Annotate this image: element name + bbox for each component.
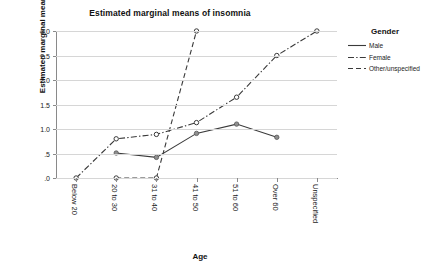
gridline (56, 105, 337, 106)
data-point (275, 135, 279, 139)
y-axis-title: Estimated marginal means (38, 0, 47, 123)
legend-item[interactable]: Male (348, 41, 440, 50)
data-point (234, 95, 238, 99)
legend-title: Gender (348, 27, 422, 36)
gridline (56, 154, 337, 155)
x-tick-label: Below 20 (70, 184, 79, 244)
legend-item-label: Other/unspecified (369, 65, 420, 72)
data-point (194, 120, 198, 124)
gridline (56, 129, 337, 130)
y-tick-label: .5 (28, 150, 50, 157)
legend: Gender MaleFemaleOther/unspecified (348, 27, 440, 76)
gridline (56, 31, 337, 32)
x-tick-mark (156, 178, 157, 182)
chart-root: Estimated marginal means of insomnia Est… (0, 0, 441, 276)
gridline (56, 80, 337, 81)
plot-area (56, 31, 337, 178)
chart-title: Estimated marginal means of insomnia (0, 8, 340, 18)
legend-line-swatch (348, 42, 366, 49)
y-tick-label: .0 (28, 175, 50, 182)
x-tick-mark (116, 178, 117, 182)
x-tick-label: 31 to 40 (150, 184, 159, 244)
data-point (194, 131, 198, 135)
x-tick-label: 41 to 50 (191, 184, 200, 244)
legend-item[interactable]: Female (348, 53, 440, 62)
x-tick-mark (76, 178, 77, 182)
legend-line-swatch (348, 54, 366, 61)
legend-item[interactable]: Other/unspecified (348, 64, 440, 73)
x-tick-mark (317, 178, 318, 182)
x-tick-mark (197, 178, 198, 182)
data-point (234, 122, 238, 126)
x-axis-title: Age (0, 252, 400, 261)
x-tick-mark (277, 178, 278, 182)
x-tick-label: 51 to 60 (231, 184, 240, 244)
legend-line-swatch (348, 65, 366, 72)
legend-item-label: Male (369, 42, 383, 49)
x-tick-label: Over 60 (271, 184, 280, 244)
data-point (154, 155, 158, 159)
data-point (154, 132, 158, 136)
gridline (56, 56, 337, 57)
y-tick-label: 1.0 (28, 126, 50, 133)
data-point (114, 137, 118, 141)
legend-item-label: Female (369, 54, 391, 61)
x-tick-mark (237, 178, 238, 182)
x-tick-label: 20 to 30 (110, 184, 119, 244)
legend-items: MaleFemaleOther/unspecified (348, 41, 440, 73)
x-tick-label: Unspecified (311, 184, 320, 244)
